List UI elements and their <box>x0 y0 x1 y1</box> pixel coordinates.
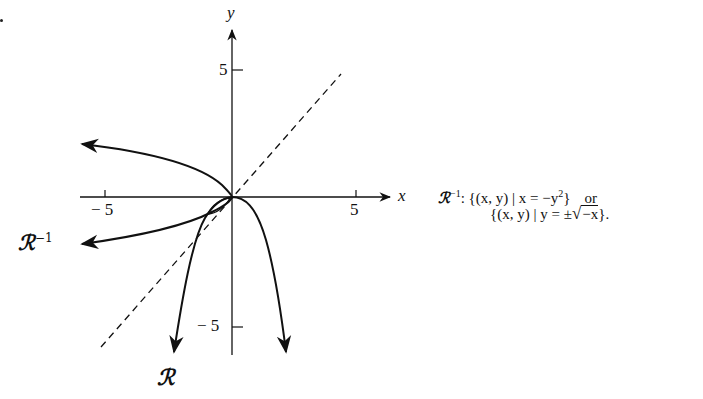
x-tick-label-5: 5 <box>350 200 359 220</box>
annotation-end: }. <box>598 206 609 222</box>
annotation-line-2: {(x, y) | y = ±√−x}. <box>490 204 609 224</box>
y-tick-label-5: 5 <box>219 60 228 80</box>
annotation-R-symbol: ℛ <box>438 189 450 207</box>
x-axis <box>80 190 390 197</box>
curve-label-R: ℛ <box>157 364 175 390</box>
identity-line <box>101 74 341 347</box>
y-axis-label: y <box>227 3 235 23</box>
curve-label-R-inverse: ℛ−1 <box>18 230 53 255</box>
sqrt-icon: √ <box>572 204 581 223</box>
x-axis-label: x <box>398 186 406 206</box>
y-tick-label-neg5: − 5 <box>197 316 219 336</box>
annotation-set-2: {(x, y) | y = ± <box>490 206 572 222</box>
annotation-superscript: −1 <box>450 188 461 199</box>
annotation-radicand: −x <box>581 205 598 222</box>
x-tick-label-neg5: − 5 <box>91 200 113 220</box>
